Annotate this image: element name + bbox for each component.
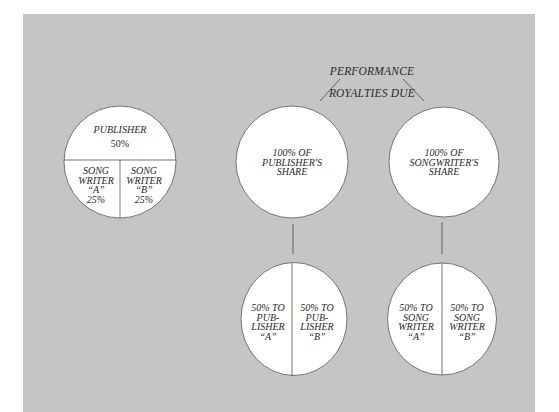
title-line-1: PERFORMANCE (312, 66, 432, 77)
songwriter-b-share-label: SONG WRITER “B” 25% (120, 166, 168, 204)
diagram-title: PERFORMANCE ROYALTIES DUE (312, 55, 432, 110)
publisher-share-label: PUBLISHER (75, 125, 165, 135)
publisher-total-share-label: 100% OF PUBLISHER'S SHARE (242, 148, 342, 177)
royalty-diagram-shapes (0, 0, 559, 412)
publisher-a-split-label: 50% TO PUB- LISHER “A” (244, 303, 292, 341)
songwriter-a-share-label: SONG WRITER “A” 25% (72, 166, 120, 204)
publisher-b-split-label: 50% TO PUB- LISHER “B” (293, 303, 341, 341)
publisher-share-value: 50% (75, 139, 165, 149)
title-line-2: ROYALTIES DUE (312, 88, 432, 99)
songwriter-a-split-label: 50% TO SONG WRITER “A” (391, 303, 441, 341)
songwriter-b-split-label: 50% TO SONG WRITER “B” (442, 303, 492, 341)
songwriter-total-share-label: 100% OF SONGWRITER'S SHARE (391, 148, 497, 177)
